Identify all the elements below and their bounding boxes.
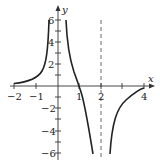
chart-plot: x y −2 −1 1 2 4 6 4 2 −2 −4 −6 [0, 0, 160, 168]
x-tick-label: −1 [29, 91, 44, 102]
curve-left-branch [14, 20, 49, 84]
y-tick-label: 2 [48, 59, 54, 70]
x-axis-arrow-icon [149, 84, 155, 89]
curve [14, 20, 144, 154]
y-tick-label: −2 [41, 103, 56, 114]
x-axis-label: x [148, 73, 154, 84]
curve-right-branch [110, 88, 144, 154]
x-tick-label: −2 [7, 91, 22, 102]
y-tick-label: 4 [48, 37, 54, 48]
x-tick-label: 4 [141, 91, 147, 102]
x-tick-label: 2 [98, 91, 104, 102]
y-tick-label: 6 [48, 15, 54, 26]
y-axis-label: y [61, 4, 68, 15]
y-tick-label: −4 [41, 126, 56, 137]
curve-middle-branch [66, 20, 93, 154]
y-axis-arrow-icon [56, 5, 61, 11]
chart: x y −2 −1 1 2 4 6 4 2 −2 −4 −6 [0, 0, 160, 168]
x-tick-label: 1 [76, 91, 82, 102]
y-tick-label: −6 [41, 148, 56, 159]
